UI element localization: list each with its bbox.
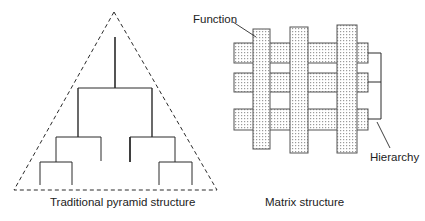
hierarchy-label: Hierarchy xyxy=(370,151,419,163)
hierarchy-bracket xyxy=(368,53,381,119)
function-bar-1 xyxy=(253,29,270,149)
vertical-bars xyxy=(253,25,357,153)
hierarchy-leader-line xyxy=(377,122,390,148)
matrix-caption: Matrix structure xyxy=(265,196,344,208)
diagram-canvas xyxy=(0,0,425,221)
matrix-diagram xyxy=(233,22,390,153)
pyramid-caption: Traditional pyramid structure xyxy=(50,196,195,208)
function-bar-3 xyxy=(337,25,357,153)
pyramid-diagram xyxy=(14,12,217,190)
function-bar-2 xyxy=(290,27,308,153)
org-tree xyxy=(40,37,192,185)
function-label: Function xyxy=(193,13,237,25)
